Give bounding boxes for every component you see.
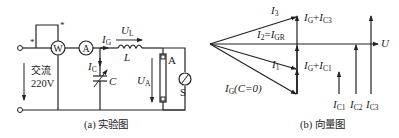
label-C: C — [109, 75, 117, 87]
source-label-ac: 交流 — [31, 64, 51, 76]
wattmeter-icon: W — [51, 41, 65, 55]
input-terminal-top — [18, 46, 23, 51]
svg-text:A: A — [82, 43, 90, 54]
caption-b: (b) 向量图 — [300, 118, 345, 131]
label-IC3: IC3 — [365, 98, 379, 112]
phasor-diagram: U I3 I2=IGR I1 IG(C=0) IG+IC3 IG+IC1 IC1… — [210, 4, 390, 131]
wattmeter-star-1: * — [30, 37, 35, 47]
label-IC1: IC1 — [332, 98, 346, 112]
label-IG-plus-IC3: IG+IC3 — [303, 11, 332, 25]
label-UL: UL — [121, 24, 134, 38]
wattmeter-star-2: * — [60, 20, 65, 30]
input-terminal-bottom — [18, 108, 23, 113]
label-L: L — [123, 51, 130, 63]
inductor-icon — [118, 45, 142, 48]
fluorescent-lamp-icon — [160, 54, 166, 102]
ammeter-icon: A — [79, 41, 93, 55]
source-label-voltage: 220V — [31, 78, 55, 89]
label-S: S — [180, 86, 186, 98]
starter-icon — [179, 73, 191, 85]
label-IG: IG — [101, 33, 112, 47]
svg-text:W: W — [53, 43, 63, 54]
label-I1: I1 — [271, 58, 280, 72]
label-UA: UA — [137, 74, 151, 88]
caption-a: (a) 实验图 — [84, 118, 128, 131]
label-IC2: IC2 — [349, 98, 363, 112]
label-I2-IGR: I2=IGR — [256, 28, 285, 42]
label-IG-plus-IC1: IG+IC1 — [303, 59, 332, 73]
figure: * * W A IG UL L — [0, 0, 399, 138]
label-I3: I3 — [270, 4, 279, 18]
label-U: U — [381, 37, 390, 49]
label-IG-C0: IG(C=0) — [224, 82, 262, 96]
label-IC: IC — [87, 60, 97, 74]
label-lamp-A: A — [168, 54, 176, 66]
circuit-diagram: * * W A IG UL L — [18, 20, 192, 131]
